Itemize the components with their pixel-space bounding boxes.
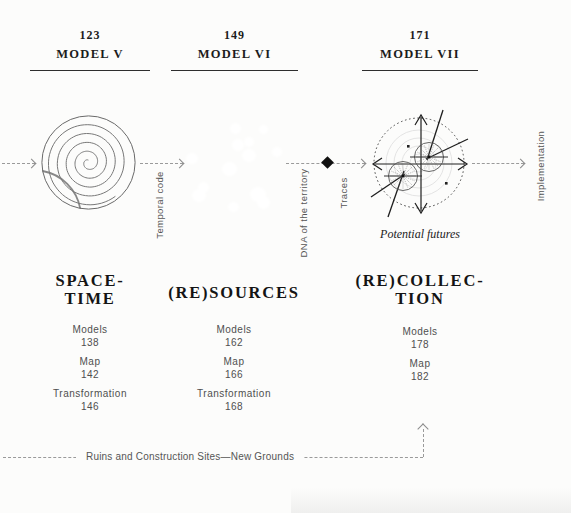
section-title-resources: (RE)SOURCES	[149, 284, 319, 302]
model-vi-header: 149 MODEL VI	[171, 28, 298, 71]
page-shadow	[291, 487, 571, 513]
model-v-page-number: 123	[30, 28, 150, 43]
list-item-page: 182	[360, 371, 480, 384]
arrow-up-icon	[417, 423, 428, 434]
list-item-label: Models	[174, 324, 294, 337]
flow-arrow-spiral-to-grid	[140, 163, 183, 164]
list-item-label: Models	[30, 324, 150, 337]
diamond-marker-icon	[321, 156, 334, 169]
section-title-space-time: SPACE- TIME	[20, 272, 160, 307]
list-item-label: Transformation	[174, 388, 294, 401]
section-title-line: SPACE-	[20, 272, 160, 290]
section-title-line: (RE)COLLEC-	[340, 272, 500, 290]
list-item: Transformation 168	[174, 388, 294, 413]
list-item-page: 138	[30, 337, 150, 350]
page-list-resources: Models 162 Map 166 Transformation 168	[174, 324, 294, 420]
list-item-label: Transformation	[30, 388, 150, 401]
grid-hole	[244, 151, 254, 160]
implementation-label: Implementation	[535, 131, 546, 202]
potential-futures-label: Potential futures	[353, 227, 487, 242]
grid-hole	[261, 127, 266, 132]
compass-illustration	[360, 100, 472, 222]
grid-hole	[224, 164, 235, 174]
grid-hole	[259, 198, 268, 207]
flow-arrow-out	[472, 163, 524, 164]
list-item-page: 142	[30, 369, 150, 382]
grid-hole	[194, 191, 204, 200]
spiral-illustration	[40, 114, 137, 211]
model-v-title: MODEL V	[30, 47, 150, 62]
traces-label: Traces	[338, 177, 349, 208]
page-list-space-time: Models 138 Map 142 Transformation 146	[30, 324, 150, 420]
footer-route-label: Ruins and Construction Sites—New Grounds	[76, 451, 304, 462]
arrow-right-icon	[516, 159, 526, 169]
model-vii-page-number: 171	[362, 28, 478, 43]
section-title-line: TIME	[20, 290, 160, 308]
list-item: Transformation 146	[30, 388, 150, 413]
model-v-header: 123 MODEL V	[30, 28, 150, 71]
list-item-label: Models	[360, 326, 480, 339]
temporal-code-label: Temporal code	[154, 171, 165, 239]
dna-territory-label: DNA of the territory	[298, 169, 309, 258]
section-title-line: TION	[340, 290, 500, 308]
model-vi-page-number: 149	[171, 28, 298, 43]
model-vi-rule	[171, 70, 298, 71]
model-vii-title: MODEL VII	[362, 47, 478, 62]
list-item-page: 162	[174, 337, 294, 350]
list-item-page: 178	[360, 339, 480, 352]
grid-illustration	[186, 115, 281, 211]
list-item-label: Map	[174, 356, 294, 369]
list-item-page: 168	[174, 401, 294, 414]
model-vii-rule	[362, 70, 478, 71]
model-v-rule	[30, 70, 150, 71]
section-title-recollection: (RE)COLLEC- TION	[340, 272, 500, 307]
model-vi-title: MODEL VI	[171, 47, 298, 62]
grid-hole	[232, 125, 239, 132]
list-item: Models 178	[360, 326, 480, 351]
list-item: Map 182	[360, 358, 480, 383]
grid-hole	[246, 139, 252, 145]
flow-arrow-in	[2, 163, 35, 164]
list-item: Models 162	[174, 324, 294, 349]
section-title-line: (RE)SOURCES	[149, 284, 319, 302]
grid-hole	[274, 149, 280, 155]
diagram-page: 123 MODEL V 149 MODEL VI 171 MODEL VII	[0, 0, 571, 513]
list-item-page: 166	[174, 369, 294, 382]
grid-hole	[200, 184, 207, 191]
grid-hole	[188, 155, 196, 162]
grid-hole	[234, 141, 242, 149]
list-item: Map 142	[30, 356, 150, 381]
list-item-page: 146	[30, 401, 150, 414]
arrow-right-icon	[175, 159, 185, 169]
list-item-label: Map	[30, 356, 150, 369]
arrow-right-icon	[27, 159, 37, 169]
list-item: Map 166	[174, 356, 294, 381]
list-item-label: Map	[360, 358, 480, 371]
list-item: Models 138	[30, 324, 150, 349]
model-vii-header: 171 MODEL VII	[362, 28, 478, 71]
grid-hole	[230, 204, 237, 210]
page-list-recollection: Models 178 Map 182	[360, 326, 480, 390]
